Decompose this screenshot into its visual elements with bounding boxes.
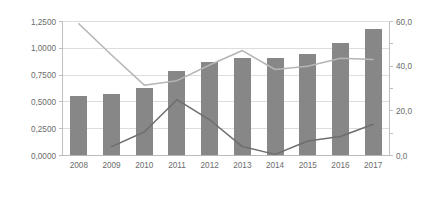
right-axis-label: 40,0 [396, 62, 412, 71]
category-label-2009: 2009 [102, 161, 121, 170]
left-axis-label: 0,7500 [31, 71, 56, 80]
bar-2017 [365, 29, 382, 155]
right-axis-label: 0,0 [396, 152, 408, 161]
tick-labels-group: 0,00000,25000,50000,75001,00001,25000,02… [31, 18, 412, 170]
left-axis-label: 1,0000 [31, 44, 56, 53]
bar-2008 [70, 96, 87, 155]
bar-2011 [168, 71, 185, 155]
category-label-2012: 2012 [201, 161, 220, 170]
right-axis-label: 60,0 [396, 18, 412, 27]
lines-group [79, 24, 373, 155]
category-label-2016: 2016 [331, 161, 350, 170]
bar-2010 [136, 88, 153, 156]
category-label-2013: 2013 [233, 161, 252, 170]
line-series-light-line [79, 24, 373, 85]
category-label-2011: 2011 [168, 161, 186, 170]
left-axis-label: 0,0000 [31, 152, 56, 161]
left-axis-label: 0,5000 [31, 98, 56, 107]
category-label-2008: 2008 [70, 161, 89, 170]
combo-chart: 0,00000,25000,50000,75001,00001,25000,02… [0, 0, 435, 207]
category-label-2010: 2010 [135, 161, 154, 170]
bar-2012 [201, 62, 218, 155]
left-axis-label: 1,2500 [31, 18, 56, 27]
chart-container: 0,00000,25000,50000,75001,00001,25000,02… [0, 0, 435, 207]
category-label-2014: 2014 [266, 161, 285, 170]
category-label-2015: 2015 [299, 161, 318, 170]
bar-2014 [267, 58, 284, 155]
right-axis-label: 20,0 [396, 107, 412, 116]
category-label-2017: 2017 [364, 161, 383, 170]
left-axis-label: 0,2500 [31, 125, 56, 134]
